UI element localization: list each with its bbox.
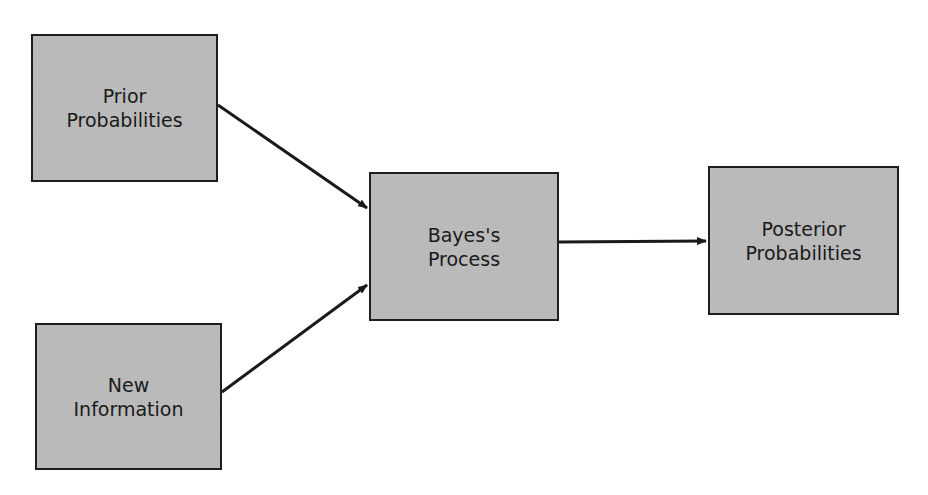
node-posterior-probabilities: Posterior Probabilities	[708, 166, 899, 315]
node-label-line1: New	[108, 373, 149, 397]
arrow-bayes-to-posterior	[559, 241, 706, 242]
node-label-line2: Process	[428, 247, 500, 271]
node-label-line1: Prior	[103, 84, 147, 108]
arrow-newinfo-to-bayes	[222, 285, 367, 392]
node-label-line2: Probabilities	[745, 241, 861, 265]
node-label-line1: Posterior	[762, 217, 846, 241]
node-new-information: New Information	[35, 323, 222, 470]
node-bayes-process: Bayes's Process	[369, 172, 559, 321]
node-label-line2: Information	[74, 397, 184, 421]
node-label-line2: Probabilities	[66, 108, 182, 132]
node-label-line1: Bayes's	[428, 223, 501, 247]
node-prior-probabilities: Prior Probabilities	[31, 34, 218, 182]
arrow-prior-to-bayes	[218, 105, 367, 208]
